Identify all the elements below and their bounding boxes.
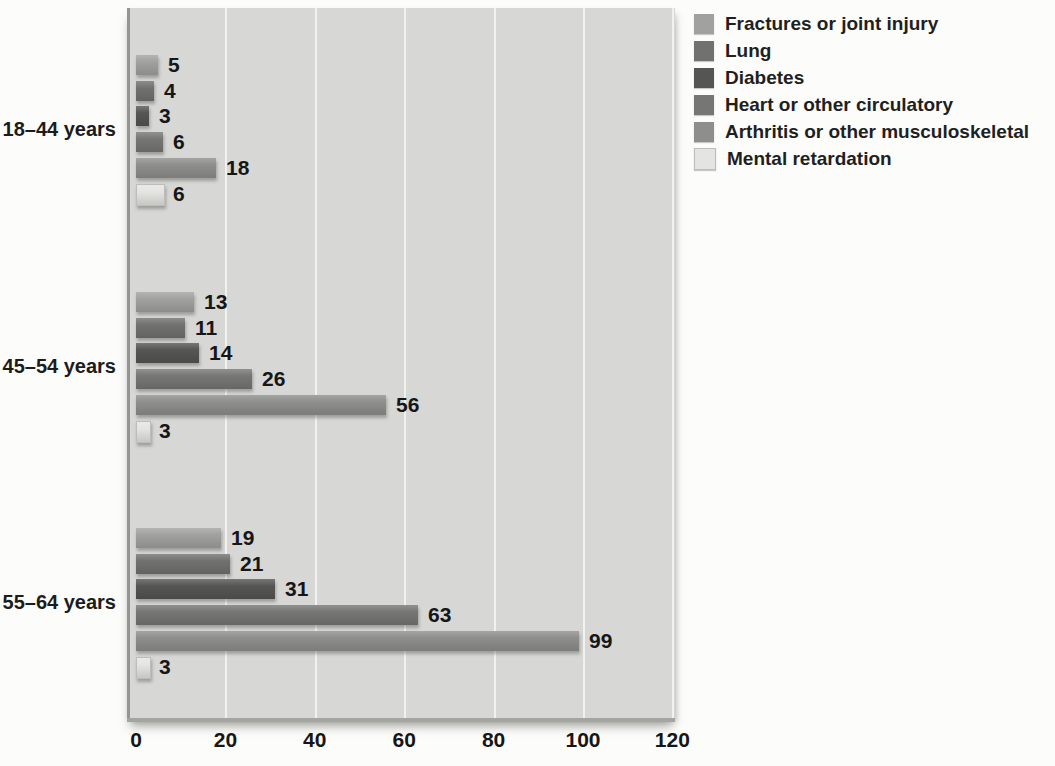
bar-value-label: 26 (262, 368, 285, 390)
y-axis-label: 18–44 years (0, 117, 116, 141)
legend-item: Mental retardation (694, 145, 1029, 172)
bar-value-label: 99 (589, 630, 612, 652)
legend-item: Arthritis or other musculoskeletal (694, 118, 1029, 145)
legend-label: Diabetes (725, 67, 804, 89)
legend-label: Fractures or joint injury (725, 13, 938, 35)
legend-label: Arthritis or other musculoskeletal (725, 121, 1029, 143)
bar (136, 184, 165, 206)
x-axis-tick-label: 40 (303, 728, 326, 752)
bar-value-label: 21 (240, 553, 263, 575)
gridline (672, 8, 674, 720)
bar-value-label: 56 (396, 394, 419, 416)
plot-area: 54361861311142656319213163993 (127, 8, 675, 720)
legend-label: Mental retardation (727, 148, 892, 170)
bar (136, 343, 199, 363)
bar (136, 81, 154, 101)
legend-swatch (694, 148, 716, 170)
y-axis-label: 45–54 years (0, 354, 116, 378)
legend-swatch (694, 68, 714, 88)
x-axis-tick-label: 120 (655, 728, 690, 752)
legend: Fractures or joint injury Lung Diabetes … (694, 10, 1029, 172)
legend-label: Lung (725, 40, 771, 62)
bar-value-label: 19 (231, 527, 254, 549)
bar (136, 631, 579, 651)
gridline (494, 8, 496, 720)
bar (136, 528, 221, 548)
bar (136, 369, 252, 389)
bar-value-label: 13 (204, 291, 227, 313)
bar (136, 318, 185, 338)
x-axis-tick-label: 60 (393, 728, 416, 752)
legend-label: Heart or other circulatory (725, 94, 953, 116)
bar (136, 421, 151, 443)
bar (136, 55, 158, 75)
gridline (583, 8, 585, 720)
y-axis-label: 55–64 years (0, 590, 116, 614)
bar (136, 605, 418, 625)
bar-value-label: 5 (168, 54, 180, 76)
legend-swatch (694, 41, 714, 61)
legend-item: Diabetes (694, 64, 1029, 91)
bar (136, 292, 194, 312)
bar-value-label: 11 (195, 317, 217, 339)
bar-value-label: 6 (173, 131, 185, 153)
x-axis-tick-label: 0 (130, 728, 142, 752)
bar (136, 657, 151, 679)
x-axis-tick-label: 20 (214, 728, 237, 752)
bar (136, 554, 230, 574)
legend-swatch (694, 95, 714, 115)
bar-value-label: 31 (285, 578, 308, 600)
bar (136, 132, 163, 152)
bar-value-label: 6 (173, 183, 185, 205)
x-axis-tick-label: 80 (482, 728, 505, 752)
bar-value-label: 18 (226, 157, 249, 179)
bar-value-label: 3 (159, 105, 171, 127)
bar-value-label: 3 (159, 656, 171, 678)
x-axis-tick-label: 100 (565, 728, 600, 752)
bar (136, 158, 216, 178)
bar-chart-figure: 54361861311142656319213163993 18–44 year… (0, 0, 1055, 766)
legend-item: Lung (694, 37, 1029, 64)
bar-value-label: 4 (164, 80, 176, 102)
legend-item: Fractures or joint injury (694, 10, 1029, 37)
legend-swatch (694, 122, 714, 142)
legend-item: Heart or other circulatory (694, 91, 1029, 118)
bar (136, 579, 275, 599)
bar-value-label: 3 (159, 420, 171, 442)
legend-swatch (694, 14, 714, 34)
bar (136, 106, 149, 126)
bar (136, 395, 386, 415)
bar-value-label: 63 (428, 604, 451, 626)
bar-value-label: 14 (209, 342, 232, 364)
